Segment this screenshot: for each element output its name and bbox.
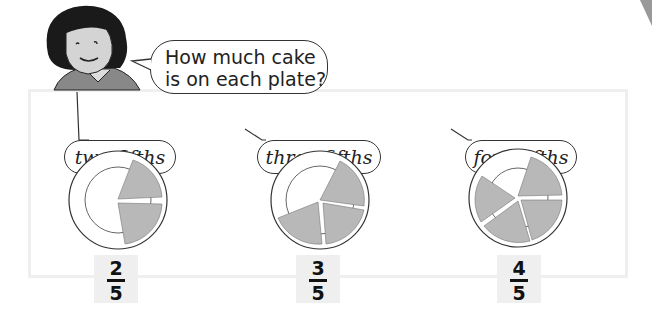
- label-bubble-tail-1: [76, 92, 90, 142]
- numerator: 3: [296, 257, 340, 279]
- denominator: 5: [497, 282, 541, 304]
- numerator: 2: [94, 257, 138, 279]
- question-line-2: is on each plate?: [165, 68, 327, 90]
- numerator: 4: [497, 257, 541, 279]
- question-line-1: How much cake: [165, 46, 327, 68]
- girl-character-illustration: [40, 4, 150, 90]
- question-bubble-tail: [130, 58, 154, 74]
- denominator: 5: [94, 282, 138, 304]
- fraction-three-fifths: 3 5: [296, 255, 340, 303]
- fraction-two-fifths: 2 5: [94, 255, 138, 303]
- plate-four-fifths: [466, 146, 570, 250]
- label-bubble-tail-2: [244, 128, 268, 144]
- page-corner-shadow: [640, 0, 652, 26]
- label-bubble-tail-3: [450, 128, 474, 144]
- denominator: 5: [296, 282, 340, 304]
- plate-three-fifths: [268, 148, 372, 252]
- question-speech-bubble: How much cake is on each plate?: [150, 40, 328, 94]
- plate-two-fifths: [66, 148, 170, 252]
- fraction-four-fifths: 4 5: [497, 255, 541, 303]
